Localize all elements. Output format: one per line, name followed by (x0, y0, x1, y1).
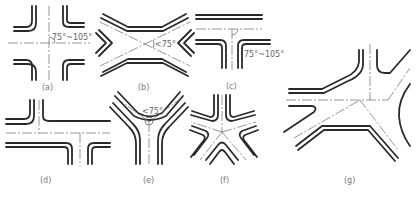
label-d: (d) (40, 176, 51, 185)
panel-c-t-junction: 75°~105° (c) (196, 15, 284, 91)
panel-f-five-way-junction: (f) (190, 95, 258, 185)
label-b: (b) (138, 83, 149, 92)
angle-note-e: <75° (142, 107, 163, 116)
panel-e-y-junction: <75° (e) (110, 92, 188, 185)
label-f: (f) (220, 176, 229, 185)
label-g: (g) (344, 176, 355, 185)
label-c: (c) (226, 82, 237, 91)
angle-note-b: <75° (155, 40, 176, 49)
angle-note-a: 75°~105° (52, 33, 92, 42)
angle-note-c: 75°~105° (244, 50, 284, 59)
panel-d-staggered-junction: (d) (6, 100, 110, 185)
label-e: (e) (143, 176, 154, 185)
panel-b-x-crossroad: <75° (b) (96, 14, 194, 92)
panel-g-complex-junction: (g) (284, 44, 410, 185)
intersection-types-diagram: 75°~105° (a) <75° (b) 75°~105° (c) (0, 0, 416, 197)
label-a: (a) (42, 83, 53, 92)
panel-a-crossroad: 75°~105° (a) (8, 6, 92, 92)
